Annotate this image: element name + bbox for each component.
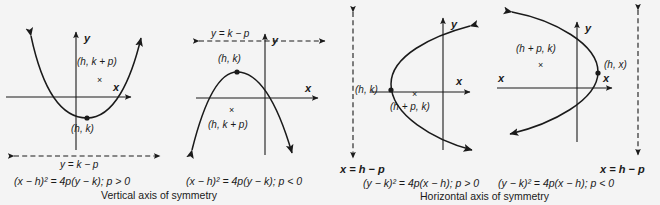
- panel2-x-axis-label: x: [305, 83, 311, 94]
- panel4-equation: (y − k)² = 4p(x − h); p < 0: [498, 178, 614, 189]
- panel4-vertex-label: (h, x): [604, 60, 627, 70]
- panel-vertical-p-negative-linework: [192, 34, 325, 155]
- caption-vertical-axis-of-symmetry: Vertical axis of symmetry: [101, 190, 217, 201]
- parabola-curve: [31, 36, 141, 118]
- panel4-directrix-label: x = h − p: [600, 164, 645, 175]
- panel3-vertex-label: (h, k): [355, 85, 378, 95]
- parabola-curve: [192, 72, 292, 153]
- panel2-vertex-label: (h, k): [218, 54, 241, 64]
- panel2-equation: (x − h)² = 4p(y − k); p < 0: [186, 176, 302, 187]
- panel1-x-axis-label: x: [113, 82, 119, 93]
- vertex-point: [595, 70, 600, 75]
- parabola-curve: [391, 26, 472, 150]
- panel1-focus-marker: ×: [97, 76, 102, 85]
- caption-horizontal-axis-of-symmetry: Horizontal axis of symmetry: [420, 191, 549, 202]
- panel-horizontal-p-negative-linework: [497, 10, 638, 155]
- panel3-focus-marker: ×: [412, 90, 417, 99]
- panel3-focus-label: (h + p, k): [390, 102, 430, 112]
- panel-vertical-p-positive-linework: [6, 32, 160, 156]
- vertex-point: [388, 87, 393, 92]
- panel3-equation: (y − k)² = 4p(x − h); p > 0: [363, 178, 479, 189]
- panel2-focus-label: (h, k + p): [208, 120, 248, 130]
- panel3-x-axis-label: x: [456, 76, 462, 87]
- parabola-figure: y x (h, k + p) × (h, k) y = k − p (x − h…: [0, 0, 660, 205]
- vertex-point: [84, 115, 89, 120]
- panel4-x-axis-label-left: x: [498, 73, 504, 84]
- panel2-focus-marker: ×: [229, 106, 234, 115]
- vertex-point: [234, 69, 239, 74]
- panel4-focus-label: (h + p, k): [516, 44, 556, 54]
- panel4-y-axis-label: y: [585, 23, 591, 34]
- panel4-x-axis-label: x: [603, 73, 609, 84]
- panel1-vertex-label: (h, k): [71, 124, 94, 134]
- panel1-equation: (x − h)² = 4p(y − k); p > 0: [14, 176, 130, 187]
- panel2-directrix-label: y = k − p: [211, 29, 249, 39]
- panel1-focus-label: (h, k + p): [77, 57, 117, 67]
- panel3-y-axis-label: y: [451, 19, 457, 30]
- panel3-directrix-label: x = h − p: [340, 164, 385, 175]
- panel4-focus-marker: ×: [538, 61, 543, 70]
- panel2-y-axis-label: y: [272, 35, 278, 46]
- panel1-directrix-label: y = k − p: [60, 160, 98, 170]
- panel1-y-axis-label: y: [84, 33, 90, 44]
